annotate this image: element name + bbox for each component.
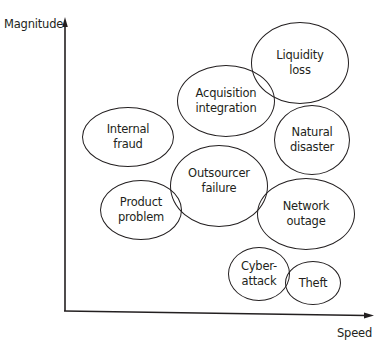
risk-bubble-diagram: Magnitude Speed Liquidity loss Acquisiti… xyxy=(0,0,388,356)
risk-bubble-cyber-attack: Cyber- attack xyxy=(228,247,290,301)
risk-label: Acquisition integration xyxy=(196,86,257,116)
risk-bubble-network-outage: Network outage xyxy=(257,178,355,250)
risk-label: Natural disaster xyxy=(290,125,334,155)
risk-label: Internal fraud xyxy=(107,122,150,152)
risk-label: Outsourcer failure xyxy=(188,166,250,196)
x-axis-arrow-icon xyxy=(364,313,374,319)
risk-label: Network outage xyxy=(283,199,330,229)
y-axis-label: Magnitude xyxy=(4,17,63,31)
risk-bubble-acquisition-integration: Acquisition integration xyxy=(177,65,275,137)
x-axis-line xyxy=(64,311,366,316)
risk-label: Theft xyxy=(299,276,328,291)
risk-label: Product problem xyxy=(118,195,164,225)
risk-label: Cyber- attack xyxy=(241,259,277,289)
risk-bubble-outsourcer-failure: Outsourcer failure xyxy=(170,145,268,227)
risk-bubble-product-problem: Product problem xyxy=(100,180,182,240)
risk-bubble-natural-disaster: Natural disaster xyxy=(274,105,350,175)
risk-label: Liquidity loss xyxy=(276,48,323,78)
risk-bubble-theft: Theft xyxy=(285,261,341,305)
x-axis-label: Speed xyxy=(337,326,372,340)
risk-bubble-internal-fraud: Internal fraud xyxy=(82,107,174,167)
